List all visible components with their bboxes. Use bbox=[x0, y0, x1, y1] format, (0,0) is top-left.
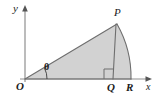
geometry-figure: y x O P Q R θ bbox=[0, 0, 161, 100]
figure-canvas bbox=[0, 0, 161, 100]
point-label-Q: Q bbox=[107, 82, 115, 93]
point-label-R: R bbox=[126, 82, 133, 93]
x-axis-label: x bbox=[146, 82, 150, 92]
point-label-P: P bbox=[114, 7, 121, 18]
point-label-O: O bbox=[16, 81, 24, 92]
y-axis-arrowhead bbox=[22, 5, 28, 12]
angle-label-theta: θ bbox=[44, 62, 49, 72]
y-axis-label: y bbox=[13, 3, 18, 14]
